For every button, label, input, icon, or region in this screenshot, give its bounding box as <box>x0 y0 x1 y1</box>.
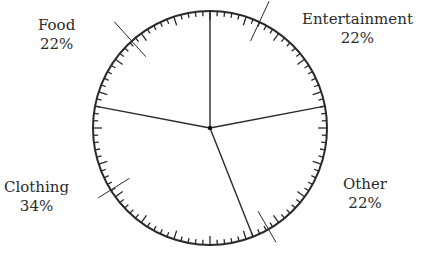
tick-mark <box>231 13 232 18</box>
tick-mark <box>270 29 273 33</box>
tick-mark <box>321 142 326 143</box>
tick-mark <box>115 59 122 64</box>
tick-mark <box>281 38 284 42</box>
leader-line <box>114 22 145 57</box>
tick-mark <box>264 25 266 29</box>
label-entertainment-name: Entertainment <box>302 10 413 29</box>
label-entertainment-value: 22% <box>302 29 413 48</box>
tick-mark <box>311 176 316 178</box>
tick-mark <box>125 48 129 51</box>
tick-mark <box>167 19 169 24</box>
tick-mark <box>160 229 162 234</box>
tick-mark <box>305 65 309 68</box>
label-other-name: Other <box>343 175 387 194</box>
tick-mark <box>297 191 304 196</box>
tick-mark <box>101 85 106 87</box>
tick-mark <box>224 12 225 17</box>
tick-mark <box>125 205 129 208</box>
tick-mark <box>231 238 232 243</box>
tick-mark <box>167 232 169 237</box>
tick-mark <box>308 72 312 74</box>
tick-mark <box>135 214 138 218</box>
label-food: Food 22% <box>38 16 75 54</box>
tick-mark <box>321 113 326 114</box>
tick-mark <box>130 43 133 47</box>
tick-mark <box>224 239 225 244</box>
tick-mark <box>243 231 246 240</box>
tick-mark <box>174 231 177 240</box>
tick-mark <box>264 226 266 230</box>
tick-mark <box>273 33 278 40</box>
tick-mark <box>107 182 111 184</box>
tick-mark <box>258 229 260 234</box>
tick-mark <box>195 12 196 17</box>
tick-mark <box>292 48 296 51</box>
tick-mark <box>141 33 146 40</box>
tick-mark <box>154 25 156 29</box>
tick-mark <box>94 142 99 143</box>
tick-mark <box>314 85 319 87</box>
slice-divider <box>210 106 325 128</box>
tick-mark <box>287 210 290 214</box>
label-clothing: Clothing 34% <box>4 178 69 216</box>
tick-mark <box>101 169 106 171</box>
label-food-value: 22% <box>38 35 75 54</box>
tick-mark <box>130 210 133 214</box>
tick-mark <box>311 78 316 80</box>
slice-divider <box>210 128 253 237</box>
tick-mark <box>135 38 138 42</box>
tick-mark <box>99 161 108 164</box>
center-point <box>208 126 212 130</box>
leader-line <box>251 1 270 41</box>
tick-mark <box>160 22 162 27</box>
label-other: Other 22% <box>343 175 387 213</box>
tick-mark <box>120 53 124 56</box>
tick-mark <box>141 215 146 222</box>
tick-mark <box>94 113 99 114</box>
tick-mark <box>99 92 108 95</box>
tick-mark <box>195 239 196 244</box>
tick-mark <box>188 238 189 243</box>
tick-mark <box>147 223 150 227</box>
tick-mark <box>305 188 309 191</box>
label-food-name: Food <box>38 16 75 35</box>
tick-mark <box>314 169 319 171</box>
label-other-value: 22% <box>343 194 387 213</box>
label-entertainment: Entertainment 22% <box>302 10 413 48</box>
tick-mark <box>115 191 122 196</box>
tick-mark <box>107 72 111 74</box>
tick-mark <box>308 182 312 184</box>
tick-mark <box>313 92 322 95</box>
tick-mark <box>154 226 156 230</box>
label-clothing-value: 34% <box>4 197 69 216</box>
slice-dividers <box>95 11 325 237</box>
tick-mark <box>95 149 100 150</box>
tick-mark <box>104 78 109 80</box>
slice-divider <box>95 106 210 128</box>
tick-mark <box>273 215 278 222</box>
tick-mark <box>287 43 290 47</box>
tick-mark <box>147 29 150 33</box>
tick-mark <box>111 65 115 68</box>
tick-mark <box>243 17 246 26</box>
tick-mark <box>320 149 325 150</box>
tick-mark <box>313 161 322 164</box>
tick-mark <box>120 199 124 202</box>
tick-mark <box>281 214 284 218</box>
tick-mark <box>296 199 300 202</box>
tick-mark <box>174 17 177 26</box>
tick-mark <box>297 59 304 64</box>
tick-mark <box>188 13 189 18</box>
label-leader-lines <box>98 1 276 242</box>
tick-mark <box>104 176 109 178</box>
tick-mark <box>270 223 273 227</box>
tick-mark <box>296 53 300 56</box>
tick-mark <box>251 19 253 24</box>
label-clothing-name: Clothing <box>4 178 69 197</box>
tick-mark <box>292 205 296 208</box>
